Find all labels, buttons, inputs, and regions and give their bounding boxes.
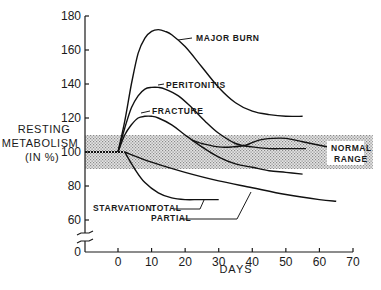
label-normal: NORMAL (331, 143, 372, 153)
label-partial: PARTIAL (151, 213, 191, 223)
series-major-burn (118, 30, 303, 152)
y-tick-label: 160 (61, 43, 81, 57)
leader-peritonitis (158, 84, 164, 85)
y-tick-label: 140 (61, 77, 81, 91)
leader-fracture (141, 111, 150, 113)
x-axis-label: DAYS (219, 263, 252, 275)
y-axis-label-line2: METABOLISM (2, 137, 78, 149)
series-lines (85, 30, 336, 202)
label-fracture: FRACTURE (152, 106, 204, 116)
metabolism-chart: 06080100120140160180010203040506070 REST… (0, 0, 381, 290)
y-axis-label-line1: RESTING (18, 123, 70, 135)
x-tick-label: 0 (115, 255, 122, 269)
chart-canvas: 06080100120140160180010203040506070 REST… (0, 0, 381, 290)
label-peritonitis: PERITONITIS (166, 80, 226, 90)
label-major-burn: MAJOR BURN (196, 33, 260, 43)
x-tick-label: 60 (313, 255, 327, 269)
y-tick-label: 60 (68, 213, 82, 227)
y-axis-label-line3: (IN %) (25, 151, 59, 163)
label-starvation: STARVATION: (93, 203, 156, 213)
y-tick-label: 80 (68, 179, 82, 193)
label-range: RANGE (334, 154, 368, 164)
x-tick-label: 70 (346, 255, 360, 269)
x-tick-label: 20 (178, 255, 192, 269)
leader-major-burn (178, 38, 192, 40)
x-tick-label: 50 (279, 255, 293, 269)
label-total: TOTAL (151, 203, 182, 213)
y-tick-label: 0 (74, 245, 81, 259)
y-tick-label: 180 (61, 9, 81, 23)
x-tick-label: 10 (145, 255, 159, 269)
